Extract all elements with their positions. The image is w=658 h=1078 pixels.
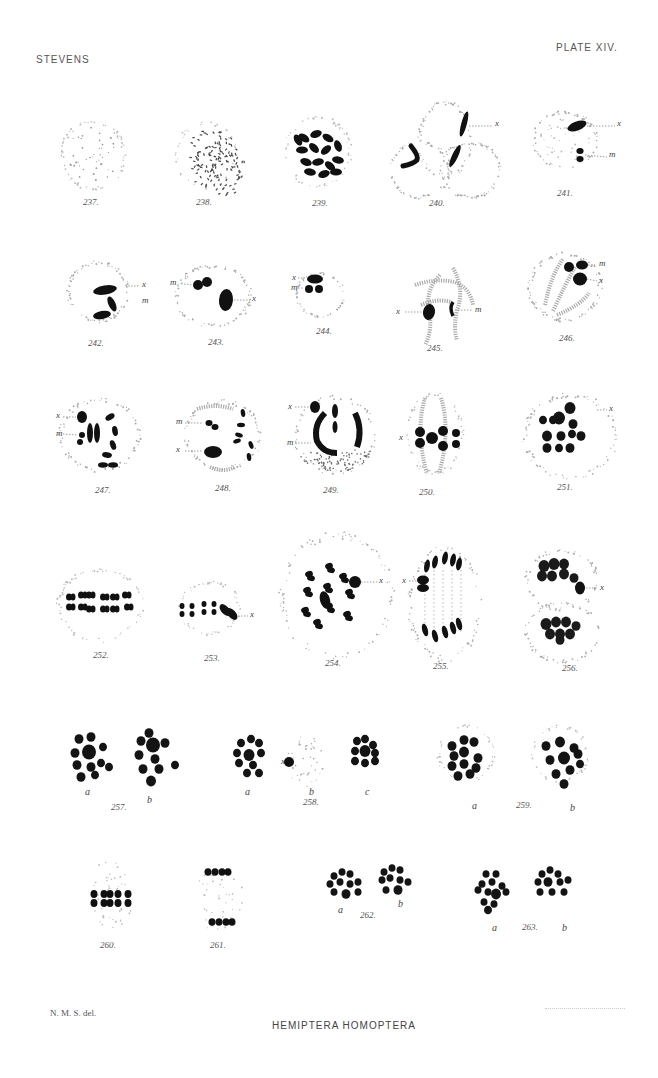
chromosome bbox=[470, 737, 479, 747]
chromosome bbox=[415, 438, 425, 448]
figure-247: xm247. bbox=[55, 395, 155, 505]
chromosome bbox=[491, 889, 501, 900]
chromosome bbox=[485, 888, 492, 896]
chromosome bbox=[556, 635, 565, 645]
chromosome bbox=[546, 755, 555, 765]
chromosome bbox=[139, 764, 148, 774]
chromosome bbox=[237, 739, 245, 748]
chromosome-label: x bbox=[56, 410, 60, 420]
chromosome bbox=[79, 432, 85, 438]
figure-number: 252. bbox=[93, 650, 109, 660]
chromosome bbox=[212, 424, 219, 430]
figure-number: 253. bbox=[204, 653, 220, 663]
chromosome bbox=[99, 743, 107, 752]
chromosome bbox=[212, 609, 217, 615]
chromosome bbox=[202, 601, 207, 607]
figure-238: 238. bbox=[170, 115, 250, 215]
chromosome bbox=[331, 888, 338, 896]
chromosome bbox=[564, 262, 574, 272]
chromosome bbox=[561, 888, 568, 896]
figure-drawing bbox=[320, 860, 430, 940]
figure-261: 261. bbox=[190, 858, 260, 958]
figure-252: 252. bbox=[55, 565, 155, 665]
chromosome bbox=[115, 890, 122, 898]
chromosome bbox=[105, 606, 110, 613]
chromosome-label: x bbox=[292, 272, 296, 282]
chromosome bbox=[347, 870, 354, 878]
chromosome-label: x bbox=[250, 609, 254, 619]
chromosome bbox=[151, 754, 160, 764]
chromosome bbox=[161, 738, 170, 748]
chromosome bbox=[104, 412, 115, 422]
chromosome bbox=[355, 878, 362, 886]
chromosome bbox=[212, 601, 217, 607]
chromosome bbox=[77, 439, 83, 445]
chromosome-label: x bbox=[617, 118, 621, 128]
chromosome bbox=[415, 427, 425, 437]
figure-drawing bbox=[290, 265, 360, 355]
chromosome bbox=[455, 557, 463, 571]
chromosome bbox=[307, 275, 323, 284]
chromosome bbox=[555, 444, 563, 453]
chromosome bbox=[246, 453, 252, 462]
chromosome bbox=[137, 736, 146, 746]
figure-number: 247. bbox=[95, 485, 111, 495]
chromosome bbox=[105, 594, 110, 601]
chromosome bbox=[355, 888, 362, 896]
chromosome bbox=[387, 874, 394, 882]
chromosome bbox=[537, 888, 544, 896]
chromosome bbox=[248, 440, 255, 449]
chromosome bbox=[257, 749, 265, 758]
cell-outline bbox=[61, 121, 127, 191]
chromosome bbox=[576, 148, 583, 154]
chromosome bbox=[205, 868, 212, 876]
chromosome bbox=[559, 569, 569, 580]
chromosome bbox=[422, 303, 437, 321]
cell-outline bbox=[439, 142, 501, 199]
figure-240: x240. bbox=[385, 90, 515, 215]
chromosome bbox=[75, 734, 84, 744]
chromosome bbox=[97, 759, 105, 768]
chromosome bbox=[557, 878, 564, 886]
chromosome bbox=[91, 899, 98, 907]
figure-number: 262. bbox=[360, 910, 376, 920]
subfigure-label: a bbox=[492, 922, 497, 933]
figure-number: 258. bbox=[303, 797, 319, 807]
chromosome bbox=[71, 748, 80, 758]
label-leader bbox=[184, 284, 193, 285]
chromosome bbox=[355, 413, 360, 447]
chromosome-label: m bbox=[609, 149, 616, 159]
chromosome-label: x bbox=[600, 582, 604, 592]
chromosome bbox=[255, 739, 263, 748]
figure-239: 239. bbox=[282, 110, 362, 215]
cell-outline bbox=[69, 127, 114, 181]
chromosome bbox=[549, 558, 560, 570]
chromosome-label: x bbox=[281, 756, 285, 766]
chromosome bbox=[560, 779, 569, 789]
chromosome bbox=[87, 423, 93, 443]
chromosome bbox=[171, 761, 179, 770]
chromosome bbox=[91, 890, 98, 898]
author-header: STEVENS bbox=[36, 54, 90, 65]
figure-263: ab263. bbox=[470, 860, 590, 940]
cell-outline bbox=[175, 121, 238, 189]
chromosome bbox=[108, 462, 118, 468]
figure-number: 242. bbox=[88, 338, 104, 348]
chromosome-label: m bbox=[56, 428, 63, 438]
chromosome bbox=[82, 744, 96, 759]
chromosome bbox=[331, 155, 344, 164]
chromosome bbox=[125, 890, 132, 898]
subfigure-label: b bbox=[398, 898, 403, 909]
chromosome bbox=[87, 762, 96, 772]
chromosome-label: m bbox=[599, 258, 606, 268]
chromosome bbox=[570, 573, 579, 583]
chromosome bbox=[240, 409, 246, 418]
chromosome bbox=[447, 144, 463, 168]
chromosome bbox=[296, 146, 308, 153]
chromosome-label: x bbox=[609, 403, 613, 413]
cell-outline bbox=[178, 581, 241, 636]
subfigure-label: c bbox=[365, 786, 369, 797]
chromosome bbox=[431, 555, 439, 569]
chromosome bbox=[360, 745, 371, 757]
artist-credit: N. M. S. del. bbox=[50, 1008, 96, 1018]
